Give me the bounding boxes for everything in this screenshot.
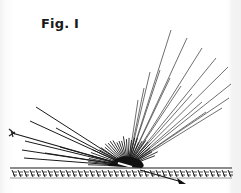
- surface-hatch: [78, 170, 81, 177]
- surface-hatch: [120, 170, 123, 177]
- surface-hatch: [216, 170, 219, 177]
- surface-hatch: [54, 170, 57, 177]
- left-rays: [22, 107, 128, 166]
- surface-hatch: [180, 170, 183, 177]
- surface-hatch: [186, 170, 189, 177]
- scattered-ray: [128, 48, 202, 166]
- surface-hatch: [96, 170, 99, 177]
- surface-hatch: [30, 170, 33, 177]
- surface-hatch: [192, 170, 195, 177]
- surface-hatch: [108, 170, 111, 177]
- surface-hatch: [24, 170, 27, 177]
- surface-hatch: [228, 170, 231, 177]
- surface-hatch: [204, 170, 207, 177]
- scattering-diagram: [0, 0, 241, 193]
- surface-hatch: [90, 170, 93, 177]
- surface-hatch: [114, 170, 117, 177]
- surface-hatch: [210, 170, 213, 177]
- surface-hatch: [138, 170, 141, 177]
- surface-hatch: [132, 170, 135, 177]
- surface-hatch: [222, 170, 225, 177]
- scattered-rays: [128, 30, 231, 166]
- surface-hatch: [18, 170, 21, 177]
- surface-hatch: [102, 170, 105, 177]
- surface-hatch: [60, 170, 63, 177]
- surface-hatch: [72, 170, 75, 177]
- surface-hatch: [198, 170, 201, 177]
- surface-hatch: [168, 170, 171, 177]
- surface-hatch: [36, 170, 39, 177]
- surface-hatch: [12, 170, 15, 177]
- arrowhead-icon: [177, 178, 186, 184]
- figure-page: Fig. I: [0, 0, 241, 193]
- surface-hatch: [174, 170, 177, 177]
- surface-hatch: [42, 170, 45, 177]
- scattered-ray: [128, 84, 231, 166]
- surface-hatch: [66, 170, 69, 177]
- feather-icon: [9, 129, 15, 137]
- hatched-surface: [10, 168, 233, 178]
- surface-hatch: [48, 170, 51, 177]
- surface-hatch: [84, 170, 87, 177]
- left-ray: [36, 107, 128, 166]
- surface-hatch: [126, 170, 129, 177]
